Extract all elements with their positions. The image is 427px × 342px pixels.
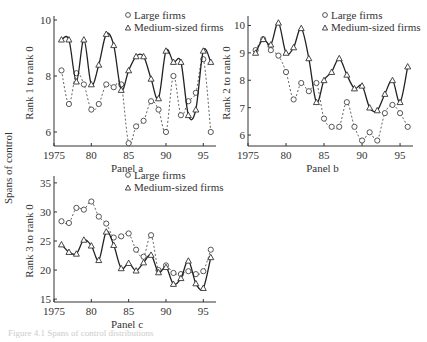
x-tick-label: 80: [281, 149, 293, 161]
circle-marker-icon: [148, 233, 153, 238]
circle-marker-icon: [66, 220, 71, 225]
triangle-marker-icon: [111, 242, 117, 247]
y-tick-label: 6: [46, 126, 52, 138]
circle-marker-icon: [299, 80, 304, 85]
legend-medium-firms: Medium-sized firms: [331, 21, 421, 33]
triangle-marker-icon: [329, 69, 335, 74]
triangle-marker-icon: [125, 185, 130, 190]
triangle-marker-icon: [344, 72, 350, 77]
medium-firms-line: [61, 33, 210, 120]
circle-marker-icon: [390, 102, 395, 107]
circle-marker-icon: [291, 97, 296, 102]
panel-c: 1520253035197580859095Panel cRank 3 to r…: [23, 169, 224, 330]
triangle-marker-icon: [193, 107, 199, 112]
y-tick-label: 8: [240, 74, 246, 86]
circle-marker-icon: [89, 107, 94, 112]
circle-marker-icon: [141, 118, 146, 123]
y-tick-label: 7: [240, 102, 246, 114]
circle-marker-icon: [268, 48, 273, 53]
triangle-marker-icon: [111, 42, 117, 47]
y-tick-label: 10: [234, 19, 246, 31]
circle-marker-icon: [81, 82, 86, 87]
triangle-marker-icon: [96, 62, 102, 67]
circle-marker-icon: [104, 82, 109, 87]
circle-marker-icon: [283, 69, 288, 74]
circle-marker-icon: [171, 270, 176, 275]
triangle-marker-icon: [306, 55, 312, 60]
circle-marker-icon: [111, 85, 116, 90]
x-tick-label: 1975: [237, 149, 260, 161]
legend: Large firmsMedium-sized firms: [322, 9, 420, 33]
panel-a: 6810197580859095Panel aRank 1 to rank 0L…: [23, 9, 224, 174]
triangle-marker-icon: [193, 280, 199, 285]
y-axis-label: Rank 2 to rank 0: [220, 46, 232, 120]
x-tick-label: 85: [123, 305, 135, 317]
legend: Large firmsMedium-sized firms: [125, 169, 223, 193]
x-tick-label: 80: [86, 149, 98, 161]
circle-marker-icon: [126, 173, 131, 178]
circle-marker-icon: [141, 254, 146, 259]
circle-marker-icon: [186, 269, 191, 274]
triangle-marker-icon: [66, 37, 72, 42]
panel-b: 678910197580859095Panel bRank 2 to rank …: [220, 9, 421, 174]
circle-marker-icon: [276, 53, 281, 58]
circle-marker-icon: [126, 141, 131, 146]
circle-marker-icon: [405, 124, 410, 129]
legend-medium-firms: Medium-sized firms: [134, 21, 224, 33]
circle-marker-icon: [74, 205, 79, 210]
circle-marker-icon: [375, 138, 380, 143]
y-axis-label: Rank 3 to rank 0: [23, 204, 35, 278]
triangle-marker-icon: [389, 77, 395, 82]
x-tick-label: 1975: [43, 305, 66, 317]
circle-marker-icon: [59, 219, 64, 224]
x-tick-label: 90: [357, 149, 369, 161]
circle-marker-icon: [337, 124, 342, 129]
circle-marker-icon: [208, 129, 213, 134]
legend-large-firms: Large firms: [331, 9, 382, 21]
triangle-marker-icon: [208, 59, 214, 64]
y-axis-label: Rank 1 to rank 0: [23, 46, 35, 120]
circle-marker-icon: [66, 101, 71, 106]
circle-marker-icon: [321, 116, 326, 121]
x-tick-label: 85: [319, 149, 331, 161]
circle-marker-icon: [148, 99, 153, 104]
figure-canvas: 6810197580859095Panel aRank 1 to rank 0L…: [0, 0, 427, 342]
circle-marker-icon: [314, 80, 319, 85]
legend: Large firmsMedium-sized firms: [125, 9, 223, 33]
x-tick-label: 90: [160, 149, 172, 161]
triangle-marker-icon: [148, 76, 154, 81]
circle-marker-icon: [352, 124, 357, 129]
x-tick-label: 80: [86, 305, 98, 317]
triangle-marker-icon: [336, 55, 342, 60]
y-tick-label: 25: [40, 235, 52, 247]
triangle-marker-icon: [291, 44, 297, 49]
circle-marker-icon: [89, 199, 94, 204]
shared-y-axis-label: Spans of control: [2, 132, 14, 204]
circle-marker-icon: [306, 89, 311, 94]
triangle-marker-icon: [185, 112, 191, 117]
y-tick-label: 20: [40, 264, 52, 276]
circle-marker-icon: [126, 231, 131, 236]
triangle-marker-icon: [126, 260, 132, 265]
triangle-marker-icon: [322, 25, 327, 30]
circle-marker-icon: [126, 13, 131, 18]
triangle-marker-icon: [58, 241, 64, 246]
circle-marker-icon: [329, 124, 334, 129]
x-tick-label: 85: [123, 149, 135, 161]
circle-marker-icon: [163, 129, 168, 134]
circle-marker-icon: [382, 111, 387, 116]
circle-marker-icon: [367, 130, 372, 135]
circle-marker-icon: [201, 269, 206, 274]
circle-marker-icon: [323, 13, 328, 18]
circle-marker-icon: [344, 100, 349, 105]
triangle-marker-icon: [275, 20, 281, 25]
x-tick-label: 95: [198, 305, 210, 317]
circle-marker-icon: [96, 101, 101, 106]
circle-marker-icon: [171, 73, 176, 78]
circle-marker-icon: [81, 207, 86, 212]
y-tick-label: 9: [240, 47, 246, 59]
triangle-marker-icon: [178, 59, 184, 64]
triangle-marker-icon: [185, 258, 191, 263]
circle-marker-icon: [208, 247, 213, 252]
triangle-marker-icon: [298, 25, 304, 30]
